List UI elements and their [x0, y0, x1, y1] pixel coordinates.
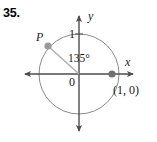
point-p-marker [44, 42, 51, 49]
origin-label: 0 [69, 76, 75, 88]
y-axis-label: y [88, 10, 93, 22]
unit-circle-figure: 35. [0, 0, 157, 142]
point-p-label: P [36, 31, 43, 43]
point-one-zero-label: (1, 0) [113, 84, 139, 96]
unit-circle-graphic [0, 0, 157, 142]
y-tick-label-one: 1 [69, 28, 75, 40]
x-axis-label: x [125, 56, 130, 68]
point-one-zero-marker [108, 70, 115, 77]
angle-label: 135° [68, 53, 90, 65]
